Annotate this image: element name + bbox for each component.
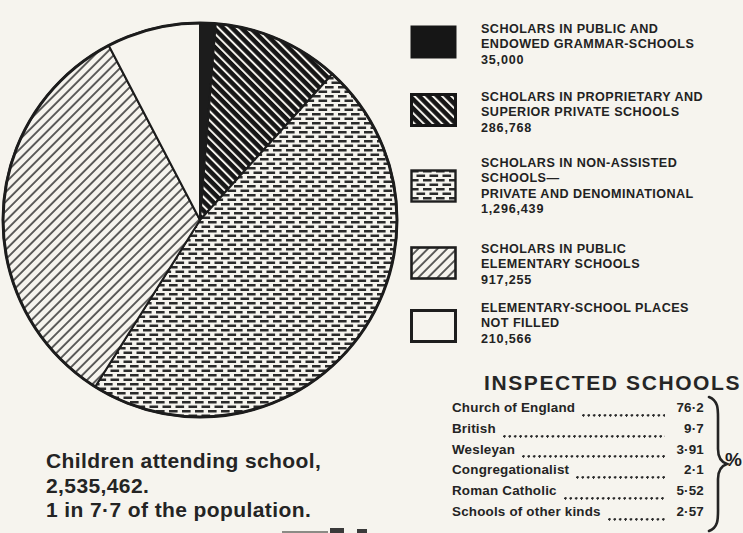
legend-label-line: ELEMENTARY SCHOOLS <box>481 257 640 272</box>
legend-value: 917,255 <box>481 273 640 288</box>
inspected-row: British 9·7 <box>452 421 704 442</box>
swatch-thin-diagonal-icon <box>410 246 457 280</box>
swatch-horizontal-dashes-icon <box>410 169 457 203</box>
swatch-solid-black-icon <box>410 25 457 59</box>
inspected-row: Church of England 76·2 <box>452 400 704 421</box>
legend-label-line: NOT FILLED <box>481 316 689 331</box>
inspected-row-value: 76·2 <box>670 400 704 415</box>
inspected-row-name: British <box>452 421 496 436</box>
inspected-row-value: 2·1 <box>670 462 704 477</box>
caption-line: Children attending school, <box>46 449 321 474</box>
scanned-chart-page: Children attending school, 2,535,462. 1 … <box>0 0 743 533</box>
cropped-print-artifact <box>357 529 367 533</box>
legend-label-line: PRIVATE AND DENOMINATIONAL <box>481 187 694 202</box>
inspected-row: Roman Catholic 5·52 <box>452 483 704 504</box>
inspected-row-name: Congregationalist <box>452 462 569 477</box>
pie-chart <box>0 4 400 432</box>
swatch-white-icon <box>410 309 457 343</box>
legend-value: 286,768 <box>481 121 703 136</box>
inspected-row-value: 2·57 <box>670 504 704 519</box>
dotted-leader <box>564 497 665 500</box>
legend-label-line: SCHOLARS IN PROPRIETARY AND <box>481 90 703 105</box>
legend-item-grammar-schools: SCHOLARS IN PUBLIC AND ENDOWED GRAMMAR-S… <box>410 22 694 68</box>
legend-label-line: SCHOLARS IN PUBLIC <box>481 242 640 257</box>
inspected-row-value: 3·91 <box>670 442 704 457</box>
dotted-leader <box>582 414 665 417</box>
swatch-white-diagonal-on-black-icon <box>410 93 457 127</box>
inspected-row-name: Wesleyan <box>452 442 515 457</box>
inspected-row-name: Church of England <box>452 400 575 415</box>
dotted-leader <box>522 455 665 458</box>
inspected-row-value: 5·52 <box>670 483 704 498</box>
legend-item-private-schools: SCHOLARS IN PROPRIETARY AND SUPERIOR PRI… <box>410 90 703 136</box>
legend-value: 1,296,439 <box>481 202 694 217</box>
percent-sign: % <box>725 449 742 471</box>
legend-label-line: SCHOLARS IN PUBLIC AND <box>481 22 694 37</box>
legend-value: 210,566 <box>481 332 689 347</box>
legend-label-line: SCHOOLS— <box>481 171 694 186</box>
dotted-leader <box>503 435 665 438</box>
caption-line: 1 in 7·7 of the population. <box>46 498 321 523</box>
legend-label-line: SCHOLARS IN NON-ASSISTED <box>481 156 694 171</box>
dotted-leader <box>608 518 665 521</box>
legend-item-non-assisted-schools: SCHOLARS IN NON-ASSISTED SCHOOLS— PRIVAT… <box>410 156 694 217</box>
legend-label-line: ELEMENTARY-SCHOOL PLACES <box>481 301 689 316</box>
legend-item-places-not-filled: ELEMENTARY-SCHOOL PLACES NOT FILLED 210,… <box>410 301 689 347</box>
legend-value: 35,000 <box>481 53 694 68</box>
inspected-row: Schools of other kinds 2·57 <box>452 504 704 525</box>
inspected-row-name: Schools of other kinds <box>452 504 601 519</box>
legend-label-line: SUPERIOR PRIVATE SCHOOLS <box>481 105 703 120</box>
cropped-print-artifact <box>330 528 344 533</box>
inspected-schools-title: INSPECTED SCHOOLS <box>484 371 741 395</box>
inspected-row-name: Roman Catholic <box>452 483 557 498</box>
caption-line: 2,535,462. <box>46 474 321 499</box>
inspected-row: Congregationalist 2·1 <box>452 462 704 483</box>
inspected-row: Wesleyan 3·91 <box>452 442 704 463</box>
legend-item-elementary-schools: SCHOLARS IN PUBLIC ELEMENTARY SCHOOLS 91… <box>410 242 640 288</box>
legend-label-line: ENDOWED GRAMMAR-SCHOOLS <box>481 37 694 52</box>
inspected-row-value: 9·7 <box>670 421 704 436</box>
dotted-leader <box>576 476 665 479</box>
inspected-schools-list: Church of England 76·2 British 9·7 Wesle… <box>452 400 704 525</box>
chart-caption: Children attending school, 2,535,462. 1 … <box>46 449 321 523</box>
